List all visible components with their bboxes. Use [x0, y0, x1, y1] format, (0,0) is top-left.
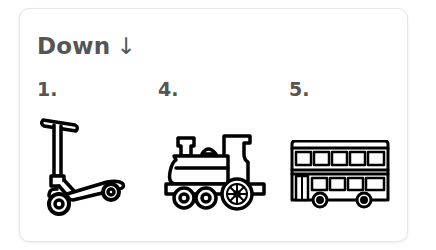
clue-5[interactable]: 5. [289, 78, 309, 100]
clue-number: 1. [37, 78, 57, 100]
kick-scooter-icon [37, 116, 137, 216]
section-heading: Down↓ [37, 33, 136, 59]
arrow-down-icon: ↓ [116, 33, 135, 59]
double-decker-bus-icon [290, 140, 390, 210]
locomotive-icon [164, 134, 268, 214]
clue-1[interactable]: 1. [37, 78, 57, 100]
clue-4[interactable]: 4. [158, 78, 178, 100]
section-title: Down [37, 33, 110, 59]
clue-number: 5. [289, 78, 309, 100]
clue-number: 4. [158, 78, 178, 100]
